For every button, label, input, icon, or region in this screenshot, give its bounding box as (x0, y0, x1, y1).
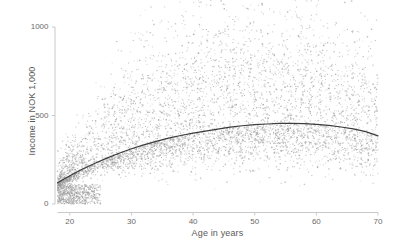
scatter-points-layer (57, 0, 379, 205)
x-tick-label: 60 (301, 217, 331, 226)
x-axis-title: Age in years (57, 228, 378, 238)
axes-layer (52, 27, 378, 216)
x-tick-label: 20 (55, 217, 85, 226)
x-tick-label: 50 (240, 217, 270, 226)
x-tick-label: 70 (363, 217, 393, 226)
x-tick-label: 40 (178, 217, 208, 226)
y-tick-label: 500 (9, 111, 49, 120)
plot-canvas (0, 0, 394, 247)
scatter-plot-figure: Income in NOK 1,000 Age in years 0500100… (0, 0, 394, 247)
y-tick-label: 1000 (9, 22, 49, 31)
y-tick-label: 0 (9, 199, 49, 208)
x-tick-label: 30 (116, 217, 146, 226)
